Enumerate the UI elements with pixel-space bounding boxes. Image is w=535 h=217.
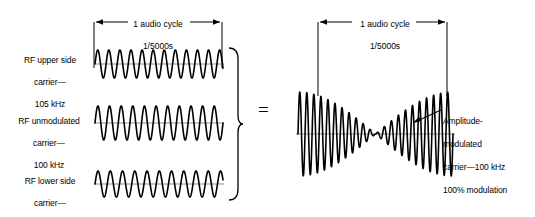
label-line-2: carrier— xyxy=(8,198,92,209)
equals-sign: = xyxy=(258,99,269,121)
label-line-2: carrier— xyxy=(4,138,94,149)
dimension-line-2: 1/5000s xyxy=(108,41,208,52)
annotation-leader-arrow xyxy=(413,110,441,123)
annotation-line-1: Amplitude- xyxy=(443,116,535,128)
annotation-amplitude-modulated-carrier: Amplitude- modulated carrier—100 kHz 100… xyxy=(443,104,535,208)
annotation-line-3: carrier—100 kHz xyxy=(443,162,535,174)
annotation-line-2: modulated xyxy=(443,139,535,151)
label-line-1: RF unmodulated xyxy=(4,116,94,127)
annotation-line-4: 100% modulation xyxy=(443,185,535,197)
label-rf-lower-side-carrier: RF lower side carrier— 95 kHz xyxy=(8,165,92,217)
dimension-line-1: 1 audio cycle xyxy=(335,19,435,30)
label-line-1: RF upper side xyxy=(8,55,92,66)
waveform-amplitude-modulated-carrier xyxy=(296,92,455,176)
label-line-2: carrier— xyxy=(8,77,92,88)
grouping-brace xyxy=(229,48,243,200)
left-dimension-label: 1 audio cycle 1/5000s xyxy=(108,8,208,63)
am-modulation-diagram: RF upper side carrier— 105 kHz RF unmodu… xyxy=(0,0,535,217)
waveform-rf-lower-side-carrier xyxy=(94,171,224,197)
waveform-rf-unmodulated-carrier xyxy=(94,106,224,140)
dimension-line-2: 1/5000s xyxy=(335,41,435,52)
right-dimension-label: 1 audio cycle 1/5000s xyxy=(335,8,435,63)
label-line-1: RF lower side xyxy=(8,176,92,187)
dimension-line-1: 1 audio cycle xyxy=(108,19,208,30)
